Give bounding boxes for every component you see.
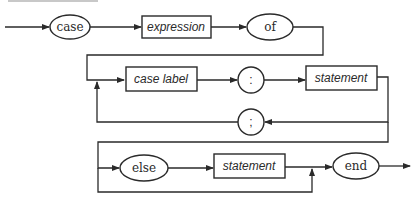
nonterminal-statement-2: statement: [214, 154, 285, 178]
terminal-semicolon: ;: [238, 109, 264, 135]
statement-1-text: statement: [315, 71, 368, 85]
terminal-end: end: [333, 153, 379, 179]
colon-text: :: [249, 73, 252, 87]
nonterminal-statement-1: statement: [306, 66, 377, 90]
statement-2-text: statement: [223, 159, 276, 173]
case-statement-syntax-diagram: case expression of case label : statemen…: [0, 0, 418, 197]
case-label-text: case: [56, 20, 83, 34]
case-label-box-text: case label: [134, 72, 188, 86]
terminal-case: case: [50, 15, 90, 39]
of-text: of: [264, 20, 277, 34]
expression-text: expression: [147, 20, 205, 34]
else-text: else: [132, 161, 156, 175]
terminal-colon: :: [238, 67, 264, 93]
nonterminal-case-label: case label: [126, 67, 197, 91]
semicolon-text: ;: [249, 115, 252, 129]
nonterminal-expression: expression: [142, 16, 211, 38]
end-text: end: [345, 159, 368, 173]
terminal-of: of: [247, 14, 293, 40]
terminal-else: else: [120, 155, 168, 181]
